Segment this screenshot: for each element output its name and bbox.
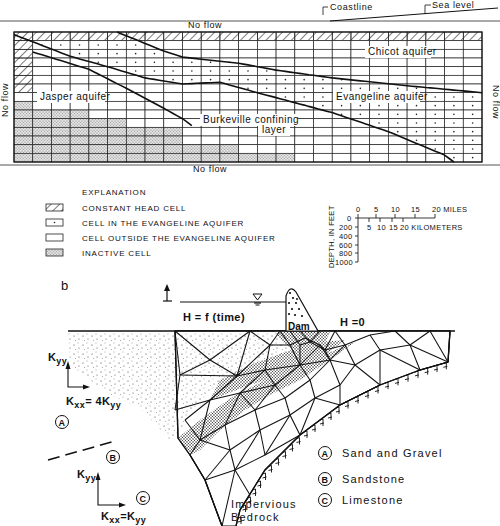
- depth-1000: 1000: [335, 258, 353, 267]
- head-right-label: H =0: [340, 316, 365, 328]
- bedrock-label-line1: Impervious: [231, 498, 297, 510]
- legend-sand-gravel-label: Sand and Gravel: [342, 447, 443, 459]
- legend-a-letter: A: [322, 449, 329, 459]
- legend-sandstone-label: Sandstone: [342, 473, 405, 485]
- kxx-bottom-equation: Kxx=Kyy: [101, 510, 146, 525]
- scale-km-15: 15: [389, 223, 398, 232]
- scale-miles-0: 0: [356, 205, 360, 214]
- kyy-bottom-label: Kyy: [77, 468, 96, 483]
- legend-c-letter: C: [322, 496, 329, 506]
- zone-c-letter: C: [140, 494, 147, 504]
- legend-b-letter: B: [322, 475, 329, 485]
- legend-label-constant-head: CONSTANT HEAD CELL: [82, 204, 186, 213]
- text-layer: Coastline Sea level No flow No flow No f…: [0, 0, 500, 526]
- scale-km-5: 5: [367, 223, 371, 232]
- scale-km-20: 20 KILOMETERS: [400, 223, 463, 232]
- chicot-aquifer-label: Chicot aquifer: [368, 46, 437, 57]
- zone-a-letter: A: [59, 418, 66, 428]
- no-flow-top-label: No flow: [188, 20, 222, 30]
- scale-miles-10: 10: [391, 205, 400, 214]
- bedrock-label-line2: Bedrock: [231, 511, 280, 523]
- burkeville-label-line2: layer: [262, 124, 286, 135]
- head-left-label: H = f (time): [183, 311, 245, 323]
- legend-label-evangeline: CELL IN THE EVANGELINE AQUIFER: [82, 219, 244, 228]
- coastline-label: Coastline: [330, 2, 373, 12]
- no-flow-left-label: No flow: [0, 83, 10, 117]
- depth-400: 400: [339, 232, 352, 241]
- scale-miles-20: 20 MILES: [432, 205, 467, 214]
- zone-b-letter: B: [110, 453, 117, 463]
- dam-label: Dam: [288, 321, 310, 332]
- no-flow-right-label: No flow: [491, 85, 500, 119]
- legend-label-inactive: INACTIVE CELL: [82, 249, 152, 258]
- scale-km-10: 10: [377, 223, 386, 232]
- explanation-title: EXPLANATION: [82, 188, 146, 197]
- depth-200: 200: [339, 223, 352, 232]
- kxx-top-equation: Kxx= 4Kyy: [66, 395, 121, 410]
- legend-limestone-label: Limestone: [342, 494, 404, 506]
- depth-0: 0: [347, 214, 351, 223]
- legend-label-outside: CELL OUTSIDE THE EVANGELINE AQUIFER: [82, 234, 276, 243]
- evangeline-aquifer-label: Evangeline aquifer: [336, 91, 428, 102]
- scale-miles-5: 5: [374, 205, 378, 214]
- no-flow-bottom-label: No flow: [193, 164, 227, 174]
- depth-800: 800: [339, 249, 352, 258]
- jasper-aquifer-label: Jasper aquifer: [40, 91, 111, 102]
- sea-level-label: Sea level: [432, 0, 474, 10]
- scale-miles-15: 15: [411, 205, 420, 214]
- panel-b-letter: b: [61, 278, 68, 293]
- kyy-top-label: Kyy: [48, 351, 67, 366]
